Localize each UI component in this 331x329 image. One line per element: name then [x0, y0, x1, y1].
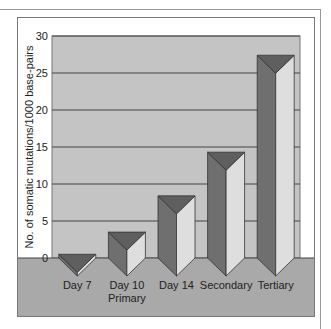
- y-tick-label: 30: [36, 30, 48, 42]
- y-tick-label: 10: [36, 178, 48, 190]
- y-tick-label: 20: [36, 104, 48, 116]
- y-tick-label: 25: [36, 67, 48, 79]
- y-axis-label: No. of somatic mutations/1000 base-pairs: [23, 45, 35, 248]
- x-category-label: Primary: [108, 292, 146, 304]
- y-tick-label: 5: [42, 215, 48, 227]
- x-category-label: Day 14: [159, 279, 194, 291]
- x-category-label: Day 7: [63, 279, 92, 291]
- bar-right-face: [226, 152, 245, 276]
- y-tick-label: 15: [36, 141, 48, 153]
- x-category-label: Tertiary: [258, 279, 295, 291]
- x-category-label: Secondary: [200, 279, 253, 291]
- bar-left-face: [257, 55, 276, 276]
- x-category-label: Day 10: [109, 279, 144, 291]
- plot-area: 051015202530Day 7Day 10PrimaryDay 14Seco…: [18, 30, 314, 316]
- mutation-chart: 051015202530Day 7Day 10PrimaryDay 14Seco…: [0, 0, 331, 329]
- bar-right-face: [276, 55, 295, 276]
- bar-left-face: [208, 152, 227, 276]
